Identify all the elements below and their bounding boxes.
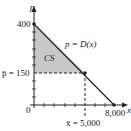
origin-label: 0 <box>26 105 31 115</box>
x-axis-label: x <box>126 105 131 115</box>
x-tick-8000: 8,000 <box>105 108 126 118</box>
curve-label: p = D(x) <box>64 39 97 49</box>
y-tick-150: p̄ = 150 <box>2 68 30 78</box>
y-tick-400: 400 <box>17 19 31 29</box>
consumer-surplus-chart: p x 400 p̄ = 150 0 8,000 x̄ = 5,000 p = … <box>0 0 131 131</box>
x-tick-5000: x̄ = 5,000 <box>66 118 101 128</box>
point-400 <box>32 22 36 26</box>
cs-label: CS <box>44 53 55 63</box>
point-8000 <box>112 103 116 107</box>
point-equilibrium <box>83 71 87 75</box>
y-axis-label: p <box>29 2 35 12</box>
